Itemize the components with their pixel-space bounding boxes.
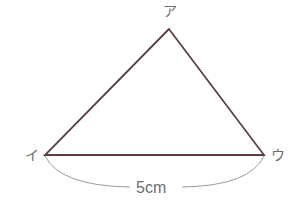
triangle-shape: [45, 29, 264, 155]
base-length-label: 5cm: [133, 180, 169, 196]
triangle-diagram: ア イ ウ 5cm: [0, 0, 298, 212]
vertex-label-left: イ: [25, 148, 39, 162]
vertex-label-top: ア: [163, 4, 177, 18]
vertex-label-right: ウ: [271, 148, 285, 162]
